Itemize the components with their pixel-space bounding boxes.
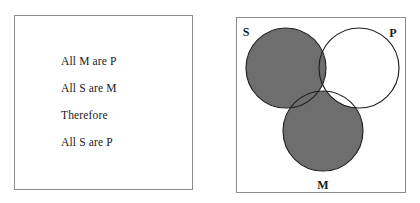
venn-diagram: S P M: [236, 17, 406, 193]
argument-line-minor-premise: All S are M: [61, 76, 117, 103]
venn-diagram-box: S P M: [236, 17, 406, 193]
argument-line-inference-marker: Therefore: [61, 103, 108, 130]
venn-label-s: S: [243, 25, 250, 39]
argument-line-major-premise: All M are P: [61, 49, 117, 76]
venn-label-p: P: [389, 26, 396, 40]
argument-box: All M are P All S are M Therefore All S …: [14, 15, 193, 190]
syllogism-venn-figure: All M are P All S are M Therefore All S …: [0, 0, 420, 203]
argument-line-conclusion: All S are P: [61, 130, 113, 157]
venn-label-m: M: [317, 178, 328, 192]
venn-circle-p: [319, 28, 399, 108]
argument-line-list: All M are P All S are M Therefore All S …: [15, 16, 192, 189]
